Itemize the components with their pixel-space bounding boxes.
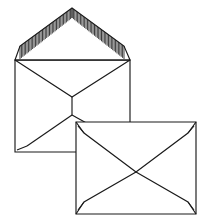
front-envelope-group	[76, 122, 196, 214]
envelope-drawing-canvas	[0, 0, 206, 224]
front-envelope-body	[76, 122, 196, 214]
envelope-illustration: Two envelopes line drawing Envelope seen…	[0, 0, 206, 224]
